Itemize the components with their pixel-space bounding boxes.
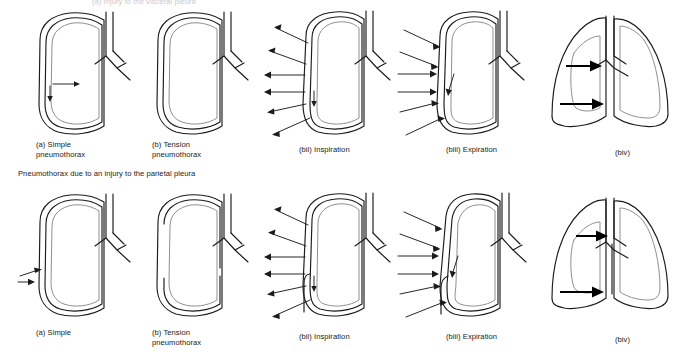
panel-r2-mediastinal-shift	[540, 190, 680, 322]
panel-r1-mediastinal-shift	[540, 8, 680, 140]
caption-r1-b: (b) Tension pneumothorax	[152, 140, 201, 160]
panel-r2-inspiration	[262, 190, 402, 322]
inspiration-arrows	[264, 206, 310, 319]
caption-r2-b: (b) Tension pneumothorax	[152, 328, 201, 348]
panel-r2-tension-pneumothorax	[140, 190, 280, 322]
panel-r1-inspiration	[262, 8, 402, 140]
caption-r1-biv: (biv)	[615, 148, 630, 158]
caption-r2-biii: (biii) Expiration	[446, 332, 497, 342]
caption-r1-bii: (bii) Inspiration	[299, 145, 350, 155]
shift-arrows	[560, 231, 608, 298]
section-heading-visceral: (a) Injury to the visceral pleura	[92, 0, 196, 6]
panel-r1-tension-pneumothorax	[140, 8, 280, 140]
caption-r2-bii: (bii) Inspiration	[299, 332, 350, 342]
caption-r1-a: (a) Simple pneumothorax	[36, 140, 85, 160]
shift-arrows	[560, 61, 604, 110]
expiration-arrows	[398, 212, 447, 317]
caption-r1-biii: (biii) Expiration	[446, 145, 497, 155]
panel-r1-expiration	[396, 8, 536, 140]
caption-r2-biv: (biv)	[615, 335, 630, 345]
pneumothorax-figure: (a) Injury to the visceral pleura Pneumo…	[0, 0, 693, 352]
section-heading-parietal: Pneumothorax due to an injury to the par…	[18, 169, 195, 178]
panel-r2-expiration	[396, 190, 536, 322]
caption-r2-a: (a) Simple	[36, 328, 71, 338]
inspiration-arrows	[264, 24, 310, 137]
